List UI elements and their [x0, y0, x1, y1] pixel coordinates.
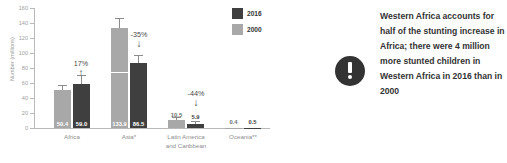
bar-value-label: 50.4	[57, 121, 68, 127]
y-tick-label: 0	[25, 125, 28, 131]
x-category-label-oceania: Oceania**	[229, 132, 257, 141]
bar-value-label: 133.9	[112, 121, 127, 127]
exclamation-dot	[348, 75, 352, 79]
category-line-1: Latin America	[166, 132, 207, 141]
category-line-2: and Caribbean	[166, 141, 207, 150]
y-tick-label: 140	[19, 20, 28, 26]
error-bar	[138, 56, 139, 63]
bar-latin-america-2000[interactable]	[168, 120, 185, 128]
y-tick-label: 100	[19, 50, 28, 56]
bar-asia-2016[interactable]: 86.5	[130, 63, 147, 128]
y-axis-title: Number (millions)	[9, 11, 15, 107]
category-line-1: Africa	[64, 132, 80, 141]
category-line-1: Asia*	[122, 132, 136, 141]
exclamation-icon	[335, 56, 365, 86]
y-tick-label: 20	[22, 110, 28, 116]
bar-oceania-2016[interactable]	[244, 128, 261, 129]
y-tick-label: 80	[22, 65, 28, 71]
category-line-1: Oceania**	[229, 132, 257, 141]
bar-value-label: 0.4	[229, 119, 237, 125]
bar-asia-2000[interactable]: 133.9	[111, 28, 128, 128]
arrow-down-icon: ↓	[137, 39, 142, 49]
y-tick-label: 160	[19, 5, 28, 11]
y-axis-line	[34, 8, 35, 128]
error-bar-cap	[58, 85, 67, 86]
x-axis-line	[34, 128, 270, 129]
bar-africa-2016[interactable]: 59.0	[73, 84, 90, 128]
error-bar-cap	[191, 121, 200, 122]
y-tick-label: 60	[22, 80, 28, 86]
x-category-label-asia: Asia*	[122, 132, 136, 141]
error-bar-cap	[134, 55, 143, 56]
callout-panel: Western Africa accounts for half of the …	[318, 0, 507, 163]
bar-value-label: 0.5	[248, 119, 256, 125]
x-category-label-latin-america: Latin America and Caribbean	[166, 132, 207, 150]
bar-value-label: 86.5	[133, 121, 144, 127]
error-bar	[62, 86, 63, 91]
error-bar	[119, 19, 120, 28]
callout-text: Western Africa accounts for half of the …	[380, 9, 506, 98]
x-category-label-africa: Africa	[64, 132, 80, 141]
bar-subregion-divider	[111, 72, 128, 73]
bar-africa-2000[interactable]: 50.4	[54, 90, 71, 128]
error-bar-cap	[172, 117, 181, 118]
exclamation-stem	[348, 62, 352, 73]
error-bar-cap	[115, 18, 124, 19]
bar-value-label: 5.9	[191, 114, 199, 120]
bar-latin-america-2016[interactable]	[187, 124, 204, 128]
legend-label: 2016	[247, 10, 262, 17]
y-tick-label: 40	[22, 95, 28, 101]
bar-value-label: 59.0	[76, 121, 87, 127]
legend-swatch-icon	[232, 8, 243, 19]
error-bar	[195, 122, 196, 124]
y-tick-label: 120	[19, 35, 28, 41]
legend-label: 2000	[247, 26, 262, 33]
bar-chart: Number (millions) 160 140 120 100	[0, 0, 310, 163]
legend-swatch-icon	[232, 24, 243, 35]
stunting-chart-figure: Number (millions) 160 140 120 100	[0, 0, 507, 163]
arrow-up-icon: ↑	[79, 68, 84, 78]
arrow-down-icon: ↓	[194, 98, 199, 108]
error-bar	[176, 118, 177, 120]
